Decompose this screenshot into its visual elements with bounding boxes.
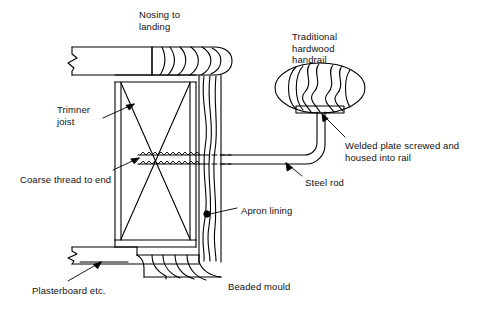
label-nosing: Nosing tolanding	[139, 9, 180, 32]
label-trimmer-joist: Trimnerjoist	[57, 104, 90, 127]
label-beaded-mould: Beaded mould	[228, 281, 290, 293]
label-apron-lining: Apron lining	[241, 205, 292, 217]
landing-floor-board	[68, 47, 152, 75]
label-steel-rod: Steel rod	[305, 177, 344, 189]
diagram-canvas: Nosing tolanding Traditionalhardwoodhand…	[0, 0, 483, 312]
label-coarse-thread: Coarse thread to end	[20, 174, 111, 186]
steel-rod	[221, 112, 325, 164]
label-plasterboard: Plasterboard etc.	[32, 285, 106, 297]
label-handrail: Traditionalhardwoodhandrail	[292, 31, 337, 66]
bullnose-nosing	[152, 47, 232, 75]
beaded-mould	[137, 255, 221, 280]
apron-lining	[199, 75, 221, 262]
label-welded-plate: Welded plate screwed andhoused into rail	[345, 140, 459, 163]
